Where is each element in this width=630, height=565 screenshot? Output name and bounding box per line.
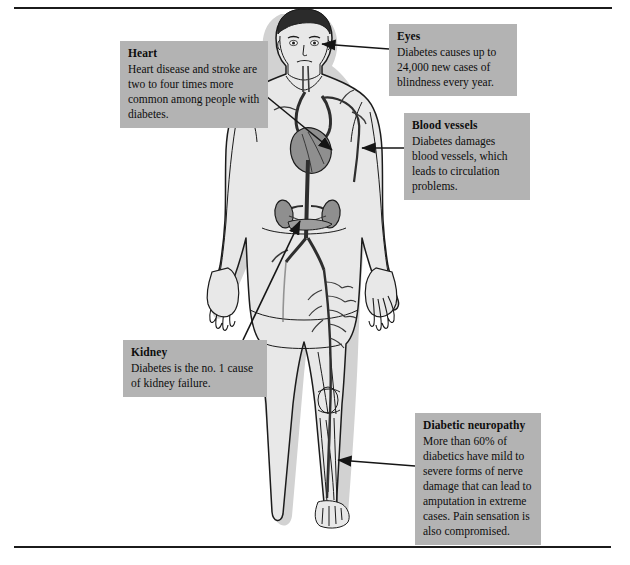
callout-kidney: Kidney Diabetes is the no. 1 cause of ki… <box>123 340 267 397</box>
callout-blood-vessels-body: Diabetes damages blood vessels, which le… <box>412 134 523 194</box>
callout-eyes: Eyes Diabetes causes up to 24,000 new ca… <box>389 24 517 96</box>
callout-blood-vessels: Blood vessels Diabetes damages blood ves… <box>404 113 530 200</box>
callout-blood-vessels-title: Blood vessels <box>412 118 523 133</box>
callout-heart: Heart Heart disease and stroke are two t… <box>120 41 268 128</box>
diagram-page: Heart Heart disease and stroke are two t… <box>0 0 630 565</box>
callout-kidney-body: Diabetes is the no. 1 cause of kidney fa… <box>131 361 260 391</box>
callout-eyes-title: Eyes <box>397 29 510 44</box>
callout-diabetic-neuropathy: Diabetic neuropathy More than 60% of dia… <box>415 413 541 545</box>
callout-heart-title: Heart <box>128 46 261 61</box>
callout-eyes-body: Diabetes causes up to 24,000 new cases o… <box>397 45 510 90</box>
callout-diabetic-neuropathy-title: Diabetic neuropathy <box>423 418 534 433</box>
callout-diabetic-neuropathy-body: More than 60% of diabetics have mild to … <box>423 434 534 539</box>
callout-kidney-title: Kidney <box>131 345 260 360</box>
callout-heart-body: Heart disease and stroke are two to four… <box>128 62 261 122</box>
